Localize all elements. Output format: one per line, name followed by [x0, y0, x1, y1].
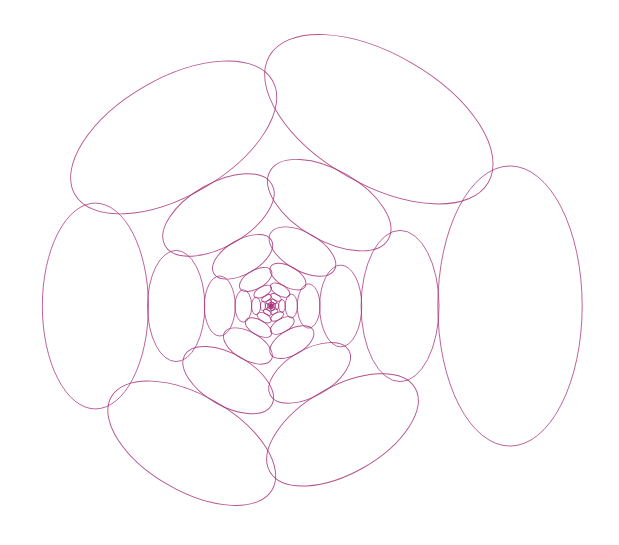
spiral-ellipse-figure: [0, 0, 619, 545]
background: [0, 0, 619, 545]
